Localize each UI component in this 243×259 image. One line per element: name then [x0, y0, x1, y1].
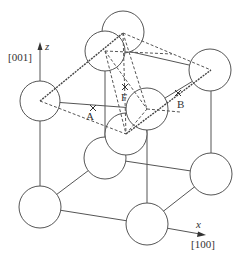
atom-bottom-right-corner	[190, 153, 232, 195]
z-axis-arrowhead-icon	[38, 42, 43, 50]
site-label-a: A	[86, 110, 94, 122]
diagram-canvas: z [001] x [100]	[0, 0, 243, 259]
site-label-f: F	[121, 91, 127, 103]
x-axis-symbol: x	[195, 218, 201, 230]
z-axis-direction-label: [001]	[8, 51, 32, 63]
fcc-unit-cell-diagram: z [001] x [100]	[0, 0, 243, 259]
atom-bottom-front-corner	[126, 203, 168, 245]
z-axis: z [001]	[8, 40, 50, 81]
z-axis-symbol: z	[44, 40, 50, 52]
x-axis: x [100]	[166, 218, 215, 250]
x-axis-direction-label: [100]	[191, 238, 215, 250]
x-axis-arrowhead-icon	[197, 232, 206, 238]
site-label-b: B	[177, 98, 184, 110]
x-axis-line	[166, 228, 200, 234]
atom-bottom-left-corner	[19, 186, 61, 228]
